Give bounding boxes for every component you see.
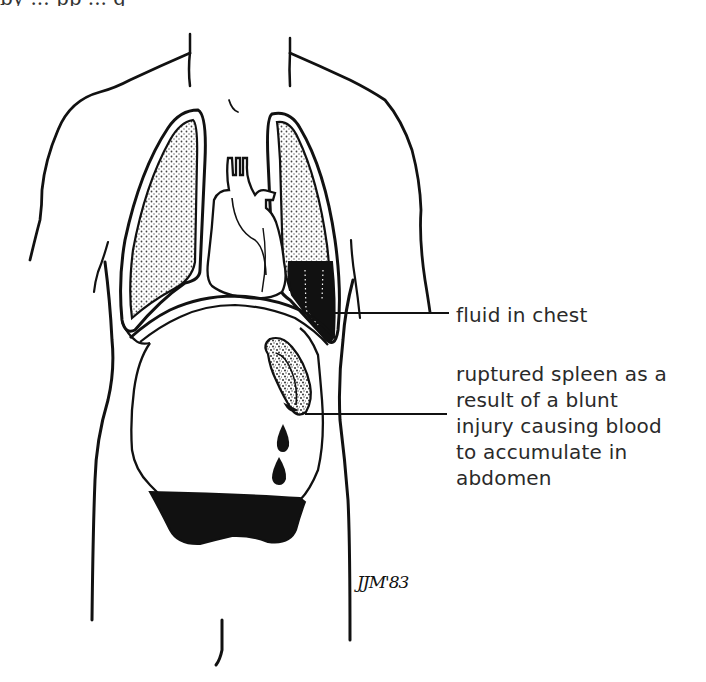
torso-drawing <box>0 0 706 682</box>
label-ruptured-spleen: ruptured spleen as a result of a blunt i… <box>456 361 706 491</box>
illustration: by ... pp ... g <box>0 0 706 682</box>
pooled-blood <box>150 492 305 544</box>
label-line: abdomen <box>456 465 706 491</box>
blood-drops <box>272 424 289 485</box>
label-line: to accumulate in <box>456 439 706 465</box>
label-line: ruptured spleen as a <box>456 361 706 387</box>
label-line: injury causing blood <box>456 413 706 439</box>
left-lung <box>121 110 206 331</box>
spleen <box>265 338 310 415</box>
label-fluid-in-chest: fluid in chest <box>456 302 588 328</box>
artist-signature: JJM'83 <box>357 572 408 592</box>
body-outline <box>30 34 430 665</box>
label-line: result of a blunt <box>456 387 706 413</box>
